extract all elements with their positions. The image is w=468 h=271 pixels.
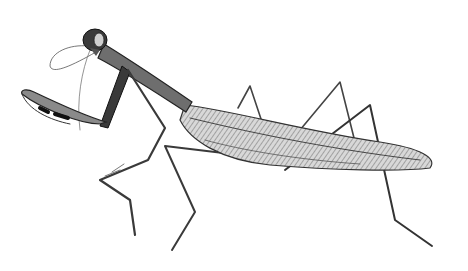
middle-legs	[165, 146, 240, 250]
front-legs	[22, 66, 165, 235]
abdomen	[180, 105, 432, 170]
illustration-canvas	[0, 0, 468, 271]
mantis-drawing	[0, 0, 468, 271]
